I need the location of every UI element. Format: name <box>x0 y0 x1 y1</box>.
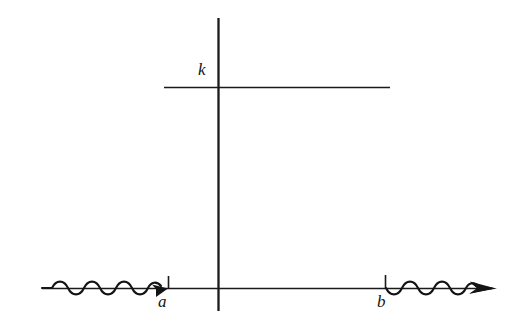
figure-canvas: k a b <box>0 0 509 333</box>
diagram-svg <box>0 0 509 333</box>
point-label-b: b <box>377 293 386 310</box>
level-label-k: k <box>198 61 206 78</box>
point-label-a: a <box>158 293 167 310</box>
